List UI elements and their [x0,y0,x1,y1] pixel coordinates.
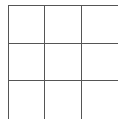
cell-2-2[interactable] [82,81,118,119]
cell-0-2[interactable] [82,6,118,44]
cell-0-1[interactable] [45,6,82,44]
cell-0-0[interactable] [9,6,45,44]
tic-tac-toe-board [8,5,118,119]
cell-1-0[interactable] [9,44,45,81]
cell-1-2[interactable] [82,44,118,81]
cell-2-0[interactable] [9,81,45,119]
cell-1-1[interactable] [45,44,82,81]
cell-2-1[interactable] [45,81,82,119]
